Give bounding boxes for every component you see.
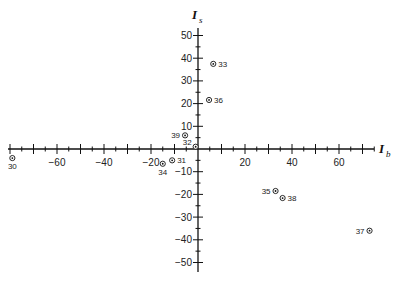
x-axis-title: I (378, 141, 385, 156)
x-tick-label: 60 (333, 157, 345, 168)
y-tick-label: −40 (175, 234, 192, 245)
data-point-label: 32 (183, 138, 192, 147)
data-point-36: 36 (206, 96, 223, 105)
data-point-31: 31 (170, 156, 187, 165)
y-axis-title-subscript: s (199, 15, 203, 25)
data-point-label: 34 (158, 168, 167, 177)
x-tick-label: −40 (96, 157, 113, 168)
data-point-label: 36 (214, 96, 223, 105)
x-tick-label: −20 (143, 157, 160, 168)
x-tick-label: −60 (49, 157, 66, 168)
data-point-label: 37 (356, 227, 365, 236)
y-tick-label: 20 (181, 98, 193, 109)
y-axis-title: I (191, 7, 198, 22)
x-tick-label: 20 (239, 157, 251, 168)
x-axis-title-subscript: b (386, 149, 391, 159)
data-point-label: 38 (288, 194, 297, 203)
data-point-label: 39 (171, 131, 180, 140)
data-point-35: 35 (262, 187, 279, 196)
data-point-37: 37 (356, 227, 373, 236)
y-tick-label: 30 (181, 75, 193, 86)
y-tick-label: −20 (175, 189, 192, 200)
x-tick-label: 40 (286, 157, 298, 168)
axes: −60−40−202040605040302010−10−20−30−40−50 (8, 28, 374, 272)
data-point-30: 30 (8, 155, 17, 171)
y-tick-label: −30 (175, 212, 192, 223)
scatter-chart: −60−40−202040605040302010−10−20−30−40−50… (0, 0, 398, 283)
data-point-33: 33 (211, 60, 228, 69)
data-point-label: 31 (177, 156, 186, 165)
data-point-32: 32 (183, 138, 199, 150)
data-point-38: 38 (280, 194, 297, 203)
y-tick-label: 40 (181, 53, 193, 64)
data-point-34: 34 (158, 161, 167, 177)
y-tick-label: 10 (181, 121, 193, 132)
data-point-label: 33 (218, 60, 227, 69)
data-point-label: 30 (8, 162, 17, 171)
data-point-label: 35 (262, 187, 271, 196)
y-tick-label: −10 (175, 166, 192, 177)
y-tick-label: −50 (175, 257, 192, 268)
y-tick-label: 50 (181, 30, 193, 41)
